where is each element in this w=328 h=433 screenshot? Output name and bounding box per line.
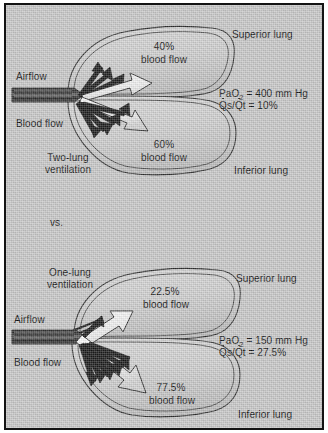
shunt-qt-dot-bottom: Q [235, 347, 243, 359]
inferior-blood-flow-pct-top: 60% [134, 139, 194, 151]
condition-label-top-line2: ventilation [26, 164, 110, 176]
superior-blood-flow-caption-bottom: blood flow [128, 299, 204, 311]
condition-label-bottom-line2: ventilation [28, 279, 112, 291]
lung-ventilation-figure: Airflow Blood flow Two-lung ventilation … [0, 0, 328, 433]
comparison-separator: vs. [50, 217, 63, 229]
artboard: Airflow Blood flow Two-lung ventilation … [6, 5, 322, 428]
blood-flow-label-bottom: Blood flow [14, 357, 61, 369]
airway-tube-top [12, 88, 84, 102]
inferior-blood-flow-caption-bottom: blood flow [134, 395, 210, 407]
condition-label-bottom-line1: One-lung [28, 267, 112, 279]
blood-flow-label-top: Blood flow [16, 118, 63, 130]
airway-tube-bottom [12, 330, 86, 344]
shunt-line-bottom: Qs/Qt = 27.5% [219, 347, 286, 359]
figure-frame: Airflow Blood flow Two-lung ventilation … [4, 3, 324, 430]
airflow-label-bottom: Airflow [14, 314, 45, 326]
airflow-label-top: Airflow [16, 71, 47, 83]
condition-label-top-line1: Two-lung [26, 152, 110, 164]
pao2-value-bottom: = 150 mm Hg [244, 335, 308, 346]
inferior-lung-label-bottom: Inferior lung [238, 409, 292, 421]
superior-blood-flow-caption-top: blood flow [126, 54, 202, 66]
superior-blood-flow-pct-bottom: 22.5% [130, 286, 200, 298]
superior-lung-label-bottom: Superior lung [236, 273, 297, 285]
shunt-line-top: Qs/Qt = 10% [219, 100, 278, 112]
shunt-q-dot-top: Q [219, 100, 227, 112]
inferior-blood-flow-caption-top: blood flow [126, 152, 202, 164]
shunt-value-bottom: = 27.5% [246, 347, 287, 358]
shunt-value-top: = 10% [246, 100, 278, 111]
inferior-lung-label-top: Inferior lung [234, 165, 288, 177]
pao2-value-top: = 400 mm Hg [244, 88, 308, 99]
superior-blood-flow-pct-top: 40% [134, 41, 194, 53]
shunt-qt-dot-top: Q [235, 100, 243, 112]
superior-lung-label-top: Superior lung [232, 29, 293, 41]
inferior-blood-flow-pct-bottom: 77.5% [136, 382, 206, 394]
shunt-q-dot-bottom: Q [219, 347, 227, 359]
